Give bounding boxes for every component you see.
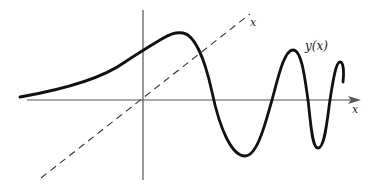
curve-label: y(x) (305, 40, 328, 52)
diagram-canvas (0, 0, 375, 187)
diagonal-line-label: x (250, 17, 256, 28)
x-axis-label: x (352, 104, 358, 115)
diagonal-line-y-equals-x (41, 14, 250, 178)
curve-y-of-x (20, 33, 344, 156)
